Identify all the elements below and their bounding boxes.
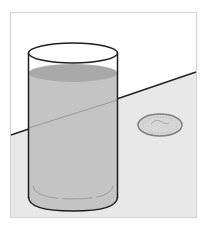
- illustration-glass-and-coin: [0, 0, 206, 242]
- water-surface: [29, 64, 118, 82]
- coin: [138, 114, 182, 136]
- glass: [29, 43, 118, 211]
- water-body: [29, 73, 118, 211]
- glass-rim: [29, 43, 118, 63]
